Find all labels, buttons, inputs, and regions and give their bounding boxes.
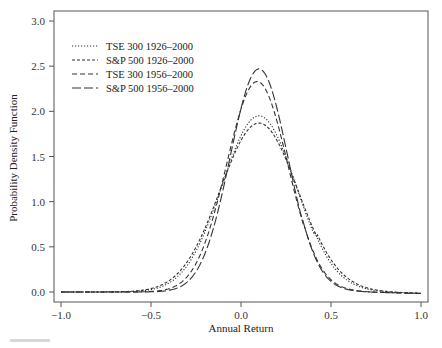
y-axis: 0.00.51.01.52.02.53.0 <box>31 15 54 298</box>
y-tick-label: 2.5 <box>31 60 45 72</box>
y-axis-title: Probability Density Function <box>7 94 19 222</box>
y-tick-label: 2.0 <box>31 105 45 117</box>
legend-label: S&P 500 1926–2000 <box>106 55 194 66</box>
series-line <box>61 123 421 293</box>
y-tick-label: 0.5 <box>31 241 45 253</box>
x-tick-label: −0.5 <box>141 309 161 321</box>
legend-label: S&P 500 1956–2000 <box>106 83 194 94</box>
x-tick-label: 1.0 <box>414 309 428 321</box>
x-tick-label: 0.5 <box>324 309 338 321</box>
series-line <box>61 116 421 293</box>
legend-label: TSE 300 1926–2000 <box>106 41 193 52</box>
x-axis-title: Annual Return <box>208 322 274 334</box>
density-chart: 0.00.51.01.52.02.53.0 −1.0−0.50.00.51.0 … <box>0 0 442 348</box>
figure-caption-fragment <box>10 339 50 342</box>
x-tick-label: −1.0 <box>51 309 71 321</box>
series-lines <box>61 69 421 294</box>
y-tick-label: 3.0 <box>31 15 45 27</box>
legend: TSE 300 1926–2000S&P 500 1926–2000TSE 30… <box>72 41 194 94</box>
series-line <box>61 69 421 294</box>
x-axis: −1.0−0.50.00.51.0 <box>51 302 428 321</box>
y-tick-label: 1.0 <box>31 196 45 208</box>
series-line <box>61 82 421 294</box>
legend-label: TSE 300 1956–2000 <box>106 69 193 80</box>
y-tick-label: 1.5 <box>31 151 45 163</box>
x-tick-label: 0.0 <box>234 309 248 321</box>
y-tick-label: 0.0 <box>31 286 45 298</box>
